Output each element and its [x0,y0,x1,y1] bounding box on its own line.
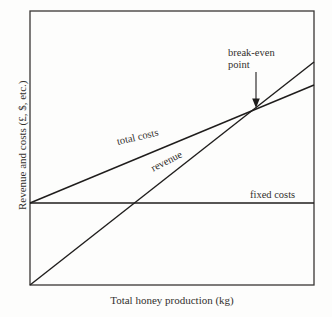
x-axis-title: Total honey production (kg) [30,294,314,307]
breakeven-chart-figure: Revenue and costs (£, $, etc.) Total hon… [0,0,332,317]
break-even-annotation-line2: point [228,59,275,71]
break-even-annotation-line1: break-even [228,47,275,58]
total-costs-line [30,85,314,203]
break-even-point-annotation: break-even point [228,47,275,71]
revenue-line [30,62,314,285]
break-even-arrow-head [252,99,260,109]
fixed-costs-label: fixed costs [250,189,295,201]
y-axis-title: Revenue and costs (£, $, etc.) [16,45,29,245]
